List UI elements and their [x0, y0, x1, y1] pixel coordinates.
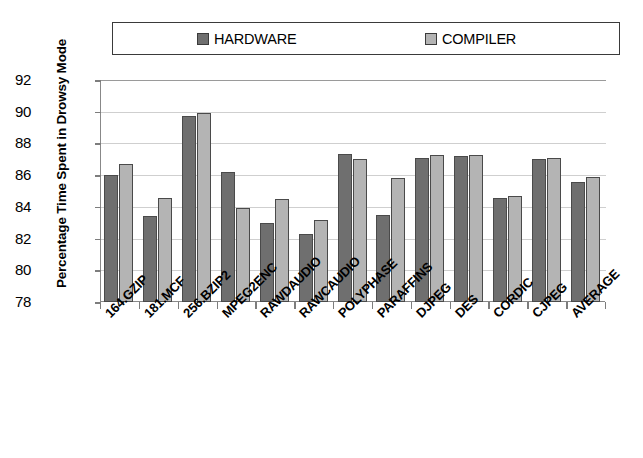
bar-group: [182, 80, 212, 302]
bar-hardware: [532, 159, 546, 303]
legend-entry-compiler: COMPILER: [425, 31, 516, 47]
x-tick-mark: [605, 302, 606, 309]
x-tick-mark: [333, 302, 334, 309]
x-tick-mark: [488, 302, 489, 309]
y-tick-label: 78: [0, 294, 31, 309]
x-axis-labels: 164.GZIP181.MCF256.BZIP2MPEG2ENCRAWDAUDI…: [100, 310, 640, 450]
bar-compiler: [197, 113, 211, 302]
chart-legend: HARDWARE COMPILER: [112, 22, 620, 55]
legend-swatch-icon-hardware: [197, 33, 209, 45]
x-tick-mark: [372, 302, 373, 309]
x-tick-mark: [294, 302, 295, 309]
legend-label-compiler: COMPILER: [442, 31, 516, 47]
bar-group: [532, 80, 562, 302]
y-tick-label: 86: [0, 167, 31, 182]
y-tick-label: 88: [0, 135, 31, 150]
x-tick-mark: [411, 302, 412, 309]
x-tick-mark: [178, 302, 179, 309]
bar-group: [454, 80, 484, 302]
y-tick-label: 90: [0, 104, 31, 119]
legend-swatch-icon-compiler: [425, 33, 437, 45]
x-tick-mark: [217, 302, 218, 309]
bar-hardware: [454, 156, 468, 302]
x-tick-mark: [566, 302, 567, 309]
bar-chart: Percentage Time Spent in Drowsy Mode HAR…: [0, 0, 643, 458]
bar-group: [571, 80, 601, 302]
y-tick-label: 84: [0, 199, 31, 214]
bar-group: [493, 80, 523, 302]
bar-hardware: [493, 198, 507, 302]
bar-group: [104, 80, 134, 302]
y-tick-label: 92: [0, 72, 31, 87]
y-tick-label: 80: [0, 262, 31, 277]
legend-entry-hardware: HARDWARE: [197, 31, 296, 47]
x-tick-mark: [527, 302, 528, 309]
bar-hardware: [104, 175, 118, 302]
bar-group: [143, 80, 173, 302]
bar-group: [221, 80, 251, 302]
legend-label-hardware: HARDWARE: [214, 31, 296, 47]
y-axis-title: Percentage Time Spent in Drowsy Mode: [54, 19, 69, 309]
bar-hardware: [182, 116, 196, 302]
x-tick-mark: [139, 302, 140, 309]
bar-hardware: [143, 216, 157, 302]
bar-compiler: [469, 155, 483, 302]
y-tick-label: 82: [0, 231, 31, 246]
x-tick-mark: [100, 302, 101, 309]
x-tick-mark: [255, 302, 256, 309]
x-tick-mark: [450, 302, 451, 309]
bar-hardware: [571, 182, 585, 302]
